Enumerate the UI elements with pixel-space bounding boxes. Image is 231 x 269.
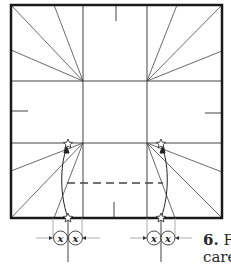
step-caption: 6. F caref (203, 232, 231, 266)
svg-text:x: x (57, 233, 65, 244)
distance-marker-labels: x x x x (57, 233, 173, 244)
caption-line-2: caref (203, 249, 231, 266)
fan-creases-lower-left (11, 143, 83, 218)
fan-creases-upper-left (11, 5, 83, 81)
origami-diagram: x x x x (0, 0, 231, 269)
caption-line-1: F (223, 231, 231, 249)
fan-creases-lower-right (147, 143, 222, 218)
svg-text:x: x (164, 233, 172, 244)
step-number: 6. (203, 231, 219, 249)
svg-text:x: x (150, 233, 158, 244)
svg-text:x: x (72, 233, 80, 244)
fan-creases-upper-right (147, 5, 222, 81)
